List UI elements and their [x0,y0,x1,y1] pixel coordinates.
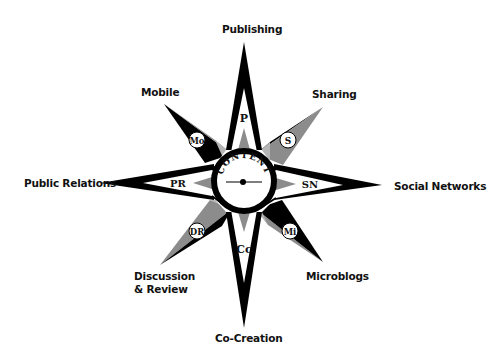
abbr-publishing: P [240,112,248,125]
svg-text:Mi: Mi [284,227,297,237]
content-dial: CONTENT [214,150,274,211]
label-discussion: Discussion [134,270,195,283]
label-mobile: Mobile [141,86,179,99]
badge-microblogs: Mi [282,223,298,239]
abbr-public-relations: PR [170,178,187,189]
label-sharing: Sharing [312,88,357,101]
label-microblogs: Microblogs [306,270,369,283]
badge-sharing: S [280,132,296,148]
label-co-creation: Co-Creation [215,332,282,345]
svg-text:DR: DR [190,227,205,237]
label-public-relations: Public Relations [24,177,116,190]
badge-mobile: Mo [189,132,205,148]
badge-discussion: DR [189,223,205,239]
abbr-social-networks: SN [302,179,318,190]
svg-text:S: S [285,136,292,146]
label-publishing: Publishing [222,23,282,36]
label-review: & Review [134,283,188,296]
label-social-networks: Social Networks [394,180,486,193]
abbr-co-creation: Cc [236,243,252,256]
svg-text:Mo: Mo [189,136,204,146]
